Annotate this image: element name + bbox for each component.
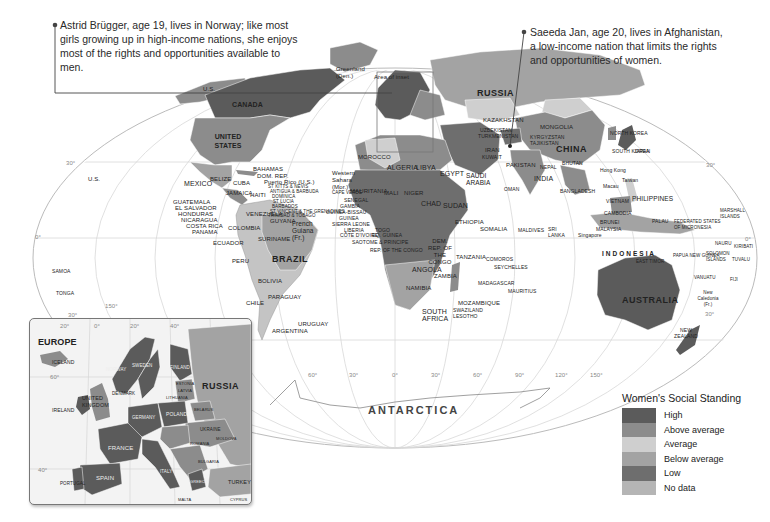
label-solomon-islands: SOLOMON ISLANDS: [706, 251, 732, 263]
legend-label-low: Low: [664, 468, 681, 478]
label-united-states: UNITED STATES: [208, 132, 248, 150]
inset-label-bulgaria: BULGARIA: [198, 459, 219, 464]
label-seychelles: SEYCHELLES: [494, 264, 528, 270]
label-ecuador: ECUADOR: [213, 240, 244, 246]
lon-60e-label: 60°: [473, 372, 482, 378]
callout-norway-text: Astrid Brügger, age 19, lives in Norway;…: [60, 19, 298, 73]
inset-label-italy: ITALY: [160, 469, 172, 474]
label-belize: BELIZE: [210, 176, 231, 182]
label-chad: CHAD: [421, 200, 441, 207]
label-dem-rep-congo: DEM. REP. OF THE CONGO: [425, 238, 455, 266]
label-egypt: EGYPT: [440, 170, 464, 177]
label-brunei: BRUNEI: [600, 219, 620, 225]
label-micronesia: FEDERATED STATES OF MICRONESIA: [674, 219, 722, 231]
inset-lon-20e: 20°: [130, 323, 139, 329]
label-comoros: COMOROS: [486, 256, 513, 262]
label-sri-lanka: SRI LANKA: [548, 226, 566, 238]
inset-lon-0: 0°: [94, 323, 100, 329]
lon-120e-label: 120°: [555, 372, 568, 378]
label-haiti: HAITI: [250, 192, 266, 198]
label-nauru: NAURU: [715, 241, 732, 246]
inset-label-spain: SPAIN: [96, 475, 114, 481]
inset-label-latvia: LATVIA: [178, 388, 192, 393]
label-tanzania: TANZANIA: [456, 254, 486, 260]
label-pakistan: PAKISTAN: [506, 162, 536, 168]
legend-item-below-average: Below average: [622, 452, 768, 467]
label-tajikistan: TAJIKISTAN: [530, 140, 559, 146]
label-south-africa: SOUTH AFRICA: [422, 308, 450, 322]
legend-swatch-high: [622, 408, 656, 423]
label-kiribati: KIRIBATI: [734, 244, 753, 249]
label-sudan: SUDAN: [443, 202, 468, 209]
legend-swatch-low: [622, 466, 656, 481]
inset-label-romania: ROMANIA: [190, 441, 209, 446]
legend-item-low: Low: [622, 466, 768, 481]
label-rep-congo: REP. OF THE CONGO: [370, 247, 423, 253]
label-greenland: Greenland (Den.): [336, 66, 372, 80]
callout-afghanistan-text: Saeeda Jan, age 20, lives in Afghanistan…: [530, 26, 723, 66]
legend-item-average: Average: [622, 437, 768, 452]
finland-shape: [170, 344, 192, 381]
label-alaska: U.S.: [203, 86, 215, 92]
label-iran: IRAN: [485, 147, 500, 153]
inset-label-sweden: SWEDEN: [132, 363, 152, 368]
inset-label-germany: GERMANY: [132, 415, 155, 420]
inset-label-norway: NORWAY: [106, 367, 126, 372]
label-lesotho: LESOTHO: [453, 313, 478, 319]
inset-label-ukraine: UKRAINE: [200, 427, 221, 432]
label-cape-verde: CAPE VERDE: [332, 190, 362, 195]
label-bahamas: BAHAMAS: [253, 166, 283, 172]
label-area-of-inset: Area of inset: [374, 74, 409, 80]
lat-0-label: 0°: [35, 234, 41, 240]
label-marshall-islands: MARSHALL ISLANDS: [720, 208, 750, 220]
label-brazil: BRAZIL: [272, 254, 308, 264]
label-madagascar: MADAGASCAR: [478, 280, 515, 286]
label-cuba: CUBA: [233, 180, 250, 186]
inset-label-poland: POLAND: [166, 411, 187, 417]
lon-150e-label: 150°: [590, 372, 603, 378]
inset-title: EUROPE: [38, 337, 77, 347]
label-australia: AUSTRALIA: [622, 295, 679, 305]
inset-lat-60: 60°: [50, 374, 59, 380]
legend-item-above-average: Above average: [622, 423, 768, 438]
label-namibia: NAMIBIA: [406, 285, 431, 291]
legend-swatch-above-average: [622, 423, 656, 438]
inset-label-portugal: PORTUGAL: [60, 481, 85, 486]
europe-inset: EUROPE 20° 0° 20° 40° 60° 40° ICELAND IR…: [29, 318, 252, 505]
lon-150w-label: 150°: [105, 303, 118, 309]
label-bolivia: BOLIVIA: [258, 278, 282, 284]
central-europe-shape: [160, 425, 190, 449]
label-india: INDIA: [534, 175, 553, 182]
label-new-zealand: NEW ZEALAND: [672, 327, 700, 339]
label-tuvalu: TUVALU: [732, 257, 750, 262]
inset-label-iceland: ICELAND: [52, 359, 74, 365]
label-panama: PANAMA: [192, 229, 218, 235]
legend: Women's Social Standing High Above avera…: [622, 392, 768, 495]
label-cambodia: CAMBODIA: [604, 210, 631, 216]
label-venezuela: VENEZUELA: [246, 211, 283, 217]
label-paraguay: PARAGUAY: [268, 294, 301, 300]
label-north-korea: NORTH KOREA: [610, 130, 648, 136]
legend-item-no-data: No data: [622, 481, 768, 496]
legend-label-high: High: [664, 410, 683, 420]
label-saudi-arabia: SAUDI ARABIA: [466, 172, 494, 186]
legend-label-above-average: Above average: [664, 425, 725, 435]
label-macau: Macau: [603, 183, 619, 189]
label-vietnam: VIETNAM: [606, 198, 629, 204]
label-vanuatu: VANUATU: [694, 275, 716, 280]
inset-label-finland: FINLAND: [170, 365, 190, 370]
lat-0-label-right: 0°: [745, 236, 751, 242]
label-zambia: ZAMBIA: [434, 273, 457, 279]
label-mauritius: MAURITIUS: [508, 288, 536, 294]
label-china: CHINA: [556, 144, 587, 154]
lon-30w-label: 30°: [349, 372, 358, 378]
label-argentina: ARGENTINA: [272, 328, 308, 334]
label-libya: LIBYA: [416, 164, 436, 171]
label-niger: NIGER: [404, 190, 424, 196]
inset-label-lithuania: LITHUANIA: [166, 395, 188, 400]
inset-lon-40e: 40°: [170, 323, 179, 329]
label-mexico: MEXICO: [184, 180, 212, 187]
inset-lon-20w: 20°: [60, 323, 69, 329]
lon-30e-label: 30°: [431, 372, 440, 378]
legend-title: Women's Social Standing: [622, 392, 768, 404]
